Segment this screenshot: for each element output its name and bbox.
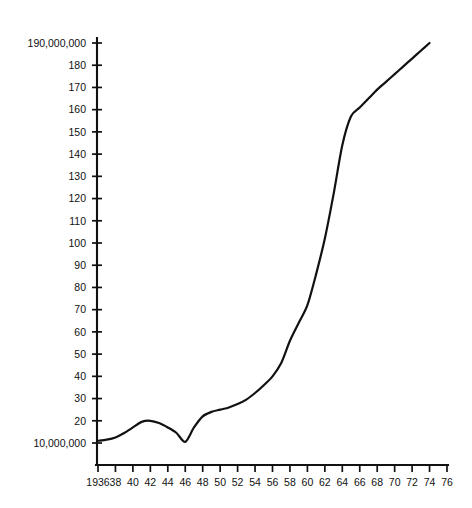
x-axis-tick-label: 60 [302,476,314,488]
y-axis-tick-label: 100 [68,237,86,249]
x-axis-tick-label: 42 [145,476,157,488]
y-axis-tick-label: 60 [74,326,86,338]
y-axis-tick-label: 170 [68,81,86,93]
x-axis-tick-label: 66 [354,476,366,488]
x-axis-tick-label: 76 [441,476,453,488]
y-axis-tick-label: 130 [68,170,86,182]
x-axis-tick-label: 70 [389,476,401,488]
x-axis-tick-label: 1936 [86,476,110,488]
x-axis-tick-label: 52 [232,476,244,488]
y-axis-tick-label: 20 [74,415,86,427]
x-axis-tick-label: 48 [197,476,209,488]
chart-container: 190,000,00018017016015014013012011010090… [0,0,472,508]
x-axis-tick-label: 62 [319,476,331,488]
y-axis-tick-label: 140 [68,148,86,160]
y-axis-tick-label: 30 [74,392,86,404]
x-axis-tick-label: 38 [110,476,122,488]
data-series-line [98,43,430,442]
x-axis-tick-label: 58 [284,476,296,488]
y-axis-tick-label: 110 [69,215,86,227]
y-axis-label-group: 190,000,00018017016015014013012011010090… [28,37,87,449]
x-axis-tick-label: 54 [249,476,261,488]
y-axis-tick-label: 40 [74,370,86,382]
x-axis-label-group: 1936384042444648505254565860626466687072… [86,476,453,488]
x-axis-tick-label: 68 [371,476,383,488]
y-axis-tick-label: 180 [68,59,86,71]
x-axis-tick-label: 50 [214,476,226,488]
y-axis-tick-label: 90 [74,259,86,271]
x-axis-tick-label: 56 [267,476,279,488]
x-axis-tick-label: 40 [127,476,139,488]
x-axis-tick-label: 64 [336,476,348,488]
y-axis-tick-label: 120 [68,192,86,204]
y-axis-tick-label: 70 [74,303,86,315]
x-axis-tick-label: 72 [406,476,418,488]
y-axis-tick-label: 50 [74,348,86,360]
y-axis-tick-label: 10,000,000 [33,437,86,449]
y-axis-tick-label: 160 [68,103,86,115]
line-chart: 190,000,00018017016015014013012011010090… [0,0,472,508]
y-axis-tick-label: 80 [74,281,86,293]
x-axis-tick-label: 74 [424,476,436,488]
y-axis-tick-label: 150 [68,126,86,138]
x-axis-tick-label: 44 [162,476,174,488]
y-axis-tick-label: 190,000,000 [28,37,87,49]
x-axis-tick-label: 46 [179,476,191,488]
